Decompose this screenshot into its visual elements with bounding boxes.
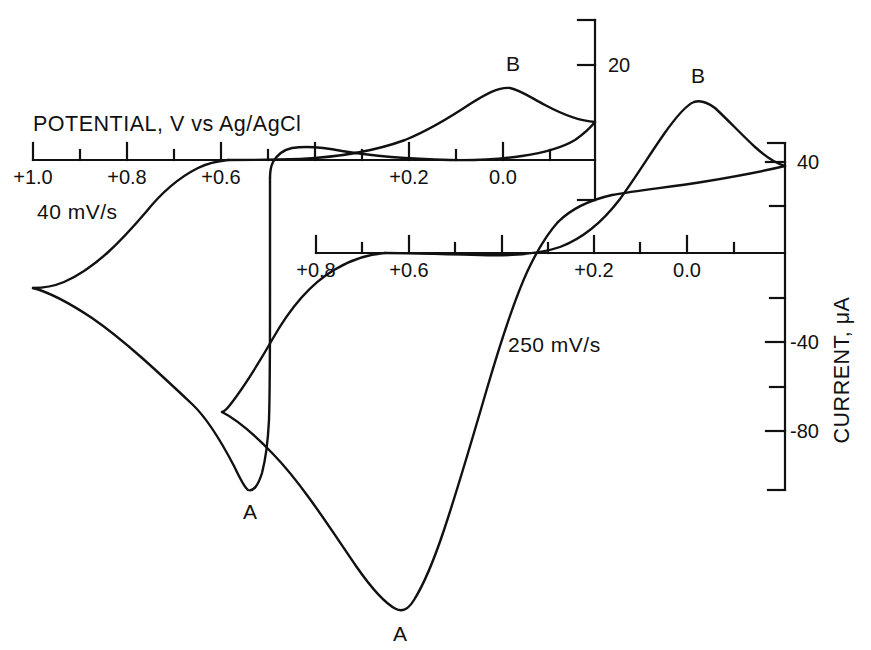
trace-250-return-limb [558,166,785,222]
left-ytick-label-20: 20 [608,54,630,76]
scan-rate-label-fast: 250 mV/s [508,333,601,356]
x-axis-title: POTENTIAL, V vs Ag/AgCl [33,112,301,136]
upper-xtick-label-0.0: 0.0 [489,166,517,188]
lower-xtick-label-0.0: 0.0 [673,259,701,281]
right-ytick-label-40: 40 [797,151,819,173]
trace-40mV-per-s [33,88,595,490]
upper-xtick-label-1.0: +1.0 [13,166,52,188]
peak-label-a-slow: A [243,500,257,523]
upper-xtick-label-0.2: +0.2 [389,166,428,188]
lower-xtick-label-0.2: +0.2 [574,259,613,281]
right-ytick-label-minus80: -80 [790,420,819,442]
figure-canvas: POTENTIAL, V vs Ag/AgCl +1.0 +0.8 +0.6 +… [0,0,871,650]
right-current-axis [766,143,785,490]
upper-xtick-label-0.8: +0.8 [107,166,146,188]
left-current-axis [578,20,595,200]
peak-label-b-fast: B [691,64,705,87]
right-ytick-label-minus40: -40 [790,331,819,353]
scan-rate-label-slow: 40 mV/s [37,200,118,223]
voltammogram-svg: POTENTIAL, V vs Ag/AgCl +1.0 +0.8 +0.6 +… [0,0,871,650]
trace-40-cathodic-branch [33,178,270,490]
upper-xtick-label-0.6: +0.6 [201,166,240,188]
lower-xtick-label-0.8: +0.8 [296,259,335,281]
trace-40-return-limb [270,122,595,178]
peak-label-b-slow: B [506,52,520,75]
peak-label-a-fast: A [393,622,407,645]
y-axis-title: CURRENT, μA [830,296,854,443]
lower-xtick-label-0.6: +0.6 [389,259,428,281]
